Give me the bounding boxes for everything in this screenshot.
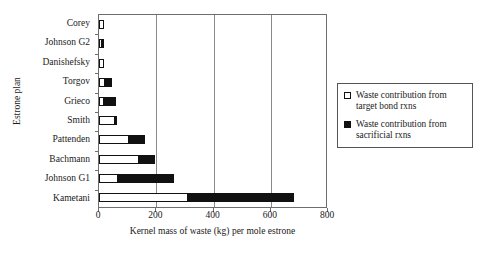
y-axis-tick: [95, 34, 99, 35]
bar-row: [99, 53, 326, 72]
y-axis-category-label: Pattenden: [18, 130, 94, 149]
bar-segment-target-bond: [99, 155, 139, 164]
legend-item-sacrificial: Waste contribution fromsacrificial rxns: [344, 119, 467, 142]
legend-item-label: Waste contribution fromsacrificial rxns: [356, 119, 447, 142]
x-axis-title: Kernel mass of waste (kg) per mole estro…: [98, 226, 327, 236]
y-axis-tick: [95, 93, 99, 94]
y-axis-category-label: Grieco: [18, 92, 94, 111]
bar-row: [99, 169, 326, 188]
y-axis-category-label: Torgov: [18, 72, 94, 91]
open-square-icon: [344, 92, 351, 99]
bar-row: [99, 92, 326, 111]
bar-segment-sacrificial: [187, 193, 293, 202]
bar-row: [99, 34, 326, 53]
x-axis-tick-label: 0: [96, 210, 101, 220]
legend-item-label: Waste contribution fromtarget bond rxns: [356, 90, 447, 113]
filled-square-icon: [344, 121, 351, 128]
y-axis-category-label: Danishefsky: [18, 53, 94, 72]
y-axis-category-label: Smith: [18, 111, 94, 130]
x-axis-tick-label: 200: [148, 210, 162, 220]
y-axis-tick: [95, 54, 99, 55]
bar-row: [99, 111, 326, 130]
stacked-bar: [99, 174, 174, 183]
legend-item-target-bond: Waste contribution fromtarget bond rxns: [344, 90, 467, 113]
y-axis-tick: [95, 170, 99, 171]
y-axis-category-label: Corey: [18, 14, 94, 33]
x-axis-tick-label: 400: [205, 210, 219, 220]
x-axis-tick-label: 800: [320, 210, 334, 220]
stacked-bar: [99, 20, 104, 29]
x-axis-tick-labels: 0200400600800: [98, 210, 327, 224]
estrone-waste-bar-chart: Estrone plan CoreyJohnson G2DanishefskyT…: [0, 0, 482, 258]
stacked-bar: [99, 193, 294, 202]
bar-row: [99, 130, 326, 149]
legend: Waste contribution fromtarget bond rxns …: [337, 83, 473, 148]
y-axis-category-label: Kametani: [18, 189, 94, 208]
bar-segment-sacrificial: [101, 39, 104, 48]
bar-row: [99, 188, 326, 207]
bar-segment-sacrificial: [114, 116, 117, 125]
bar-segment-target-bond: [99, 135, 129, 144]
bar-segment-sacrificial: [128, 135, 145, 144]
bar-segment-sacrificial: [103, 97, 116, 106]
bar-segment-sacrificial: [104, 78, 112, 87]
y-axis-category-labels: CoreyJohnson G2DanishefskyTorgovGriecoSm…: [18, 14, 94, 208]
bar-segment-sacrificial: [138, 155, 155, 164]
stacked-bar: [99, 116, 117, 125]
y-axis-category-label: Johnson G1: [18, 169, 94, 188]
stacked-bar: [99, 97, 116, 106]
y-axis-tick: [95, 73, 99, 74]
bar-segment-sacrificial: [117, 174, 174, 183]
bar-series-group: [99, 15, 326, 207]
bar-row: [99, 15, 326, 34]
y-axis-tick: [95, 112, 99, 113]
y-axis-tick: [95, 151, 99, 152]
plot-area: [98, 14, 327, 208]
bar-segment-target-bond: [99, 193, 188, 202]
x-axis-tick-label: 600: [263, 210, 277, 220]
y-axis-category-label: Bachmann: [18, 150, 94, 169]
bar-segment-target-bond: [99, 59, 104, 68]
bar-segment-target-bond: [99, 20, 104, 29]
stacked-bar: [99, 78, 112, 87]
bar-segment-target-bond: [99, 116, 115, 125]
y-axis-tick: [95, 190, 99, 191]
stacked-bar: [99, 39, 104, 48]
bar-row: [99, 149, 326, 168]
stacked-bar: [99, 155, 155, 164]
bar-row: [99, 73, 326, 92]
y-axis-category-label: Johnson G2: [18, 33, 94, 52]
y-axis-tick: [95, 131, 99, 132]
stacked-bar: [99, 59, 104, 68]
stacked-bar: [99, 135, 145, 144]
bar-segment-target-bond: [99, 174, 118, 183]
